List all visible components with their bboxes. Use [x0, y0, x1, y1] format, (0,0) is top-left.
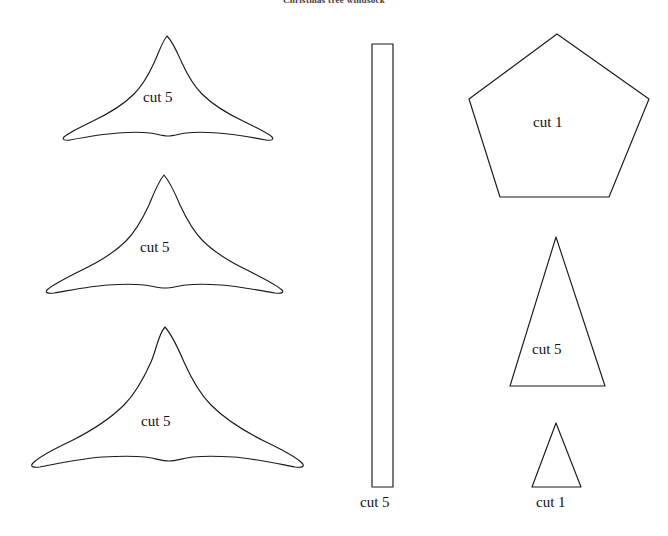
tree-tier-medium-label: cut 5: [140, 240, 170, 255]
tree-tier-large-label: cut 5: [141, 414, 171, 429]
triangle-large-label: cut 5: [532, 342, 562, 357]
tree-tier-small-label: cut 5: [143, 90, 173, 105]
rectangle-strip-outline: [372, 44, 393, 487]
triangle-small-label: cut 1: [536, 495, 566, 510]
pattern-sheet: Christmas tree windsock cut 5 cut 5 cut …: [0, 0, 668, 536]
pentagon-label: cut 1: [533, 115, 563, 130]
pattern-shapes: [0, 0, 668, 536]
tree-tier-medium-outline: [46, 175, 282, 293]
triangle-large-outline: [510, 237, 605, 386]
tree-tier-large-outline: [32, 327, 304, 467]
rectangle-strip-label: cut 5: [360, 495, 390, 510]
triangle-small-outline: [532, 423, 581, 487]
